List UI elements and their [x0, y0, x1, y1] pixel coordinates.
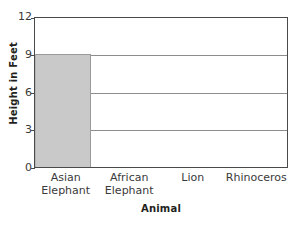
y-tick-label-12: 12	[10, 11, 32, 22]
x-tick-label-line: African	[98, 171, 162, 184]
bar-chart: Height in Feet 036912 AsianElephantAfric…	[0, 0, 299, 226]
x-axis-tick-labels: AsianElephantAfricanElephantLionRhinocer…	[34, 171, 288, 205]
x-tick-label-asian-elephant: AsianElephant	[34, 171, 98, 197]
y-tick-mark-0	[31, 168, 35, 169]
plot-area	[34, 17, 288, 168]
y-tick-label-3: 3	[10, 124, 32, 135]
x-tick-label-line: Elephant	[34, 184, 98, 197]
y-tick-label-6: 6	[10, 87, 32, 98]
bar-asian-elephant	[35, 54, 91, 167]
x-tick-label-line: Asian	[34, 171, 98, 184]
y-tick-label-0: 0	[10, 162, 32, 173]
x-axis-title: Animal	[34, 203, 288, 214]
x-tick-label-rhinoceros: Rhinoceros	[225, 171, 289, 184]
x-tick-label-lion: Lion	[161, 171, 225, 184]
x-tick-label-line: Rhinoceros	[225, 171, 289, 184]
x-tick-label-african-elephant: AfricanElephant	[98, 171, 162, 197]
x-tick-label-line: Lion	[161, 171, 225, 184]
y-tick-label-9: 9	[10, 49, 32, 60]
y-axis-tick-labels: 036912	[6, 0, 32, 226]
bar-series	[35, 18, 287, 167]
x-tick-label-line: Elephant	[98, 184, 162, 197]
